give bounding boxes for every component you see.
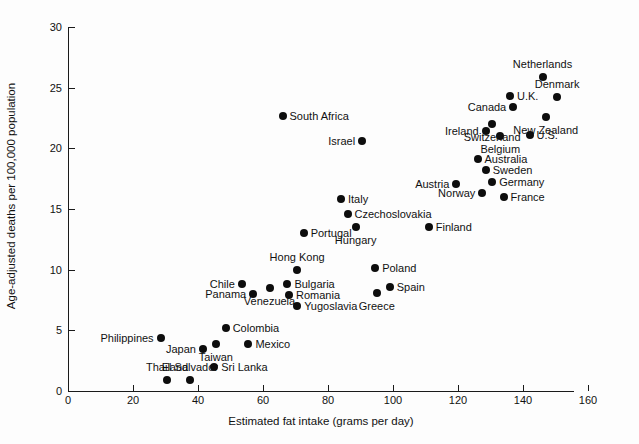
x-tick-label: 140 xyxy=(514,394,532,406)
x-tick-label: 80 xyxy=(322,394,334,406)
data-point xyxy=(542,113,550,121)
y-tick-label: 10 xyxy=(50,264,62,276)
data-point-label: Mexico xyxy=(255,338,290,350)
x-axis-title: Estimated fat intake (grams per day) xyxy=(68,415,574,427)
y-tick-mark xyxy=(69,148,75,149)
y-tick-label: 0 xyxy=(56,385,62,397)
data-point xyxy=(425,223,433,231)
y-axis-title: Age-adjusted deaths per 100,000 populati… xyxy=(4,0,18,391)
x-tick-label: 60 xyxy=(257,394,269,406)
data-point xyxy=(157,334,165,342)
y-tick-label: 5 xyxy=(56,324,62,336)
data-point-label: Czechoslovakia xyxy=(355,208,432,220)
data-point xyxy=(500,193,508,201)
data-point-label: France xyxy=(511,191,545,203)
data-point xyxy=(506,92,514,100)
data-point-label: Canada xyxy=(468,101,507,113)
x-tick-mark xyxy=(68,385,69,391)
x-tick-mark xyxy=(133,385,134,391)
data-point-label: U.K. xyxy=(517,90,538,102)
y-tick-label: 30 xyxy=(50,21,62,33)
data-point xyxy=(210,363,218,371)
y-tick-mark xyxy=(69,27,75,28)
data-point-label: Italy xyxy=(348,193,368,205)
data-point-label: Netherlands xyxy=(513,58,572,70)
y-tick-label: 15 xyxy=(50,203,62,215)
data-point-label: Hungary xyxy=(335,234,377,246)
data-point xyxy=(212,340,220,348)
data-point xyxy=(300,229,308,237)
data-point xyxy=(488,120,496,128)
x-tick-label: 160 xyxy=(579,394,597,406)
data-point xyxy=(283,280,291,288)
data-point-label: Greece xyxy=(359,300,395,312)
x-tick-mark xyxy=(198,385,199,391)
data-point xyxy=(337,195,345,203)
x-tick-mark xyxy=(458,385,459,391)
y-axis-title-text: Age-adjusted deaths per 100,000 populati… xyxy=(5,82,17,308)
data-point xyxy=(373,289,381,297)
data-point-label: Switzerland xyxy=(464,131,521,143)
data-point xyxy=(509,103,517,111)
y-tick-label: 25 xyxy=(50,82,62,94)
data-point xyxy=(222,324,230,332)
x-tick-mark xyxy=(263,385,264,391)
data-point-label: Finland xyxy=(436,221,472,233)
data-point-label: Israel xyxy=(328,135,355,147)
y-tick-mark xyxy=(69,330,75,331)
y-tick-label: 20 xyxy=(50,142,62,154)
data-point xyxy=(488,178,496,186)
data-point-label: Spain xyxy=(397,281,425,293)
y-tick-mark xyxy=(69,270,75,271)
data-point-label: Poland xyxy=(382,262,416,274)
data-point-label: Norway xyxy=(438,187,475,199)
y-tick-mark xyxy=(69,88,75,89)
data-point xyxy=(358,137,366,145)
data-point xyxy=(482,166,490,174)
data-point-label: Belgium xyxy=(480,143,520,155)
x-tick-label: 120 xyxy=(449,394,467,406)
x-tick-mark xyxy=(328,385,329,391)
y-tick-mark xyxy=(69,209,75,210)
data-point-label: Sweden xyxy=(493,164,533,176)
data-point xyxy=(344,210,352,218)
data-point xyxy=(279,112,287,120)
data-point xyxy=(266,284,274,292)
data-point xyxy=(474,155,482,163)
x-tick-label: 20 xyxy=(127,394,139,406)
data-point xyxy=(386,283,394,291)
data-point-label: Colombia xyxy=(233,322,279,334)
x-tick-label: 0 xyxy=(65,394,71,406)
data-point-label: Philippines xyxy=(100,332,153,344)
x-tick-mark xyxy=(523,385,524,391)
x-tick-mark xyxy=(393,385,394,391)
data-point-label: Taiwan xyxy=(199,351,233,363)
data-point-label: Hong Kong xyxy=(270,251,325,263)
data-point xyxy=(186,376,194,384)
data-point-label: Yugoslavia xyxy=(304,300,357,312)
x-tick-mark xyxy=(588,385,589,391)
data-point-label: Chile xyxy=(210,278,235,290)
data-point xyxy=(293,266,301,274)
scatter-chart: 020406080100120140160 051015202530 Thail… xyxy=(0,0,639,444)
x-axis-line xyxy=(68,391,574,392)
x-tick-label: 40 xyxy=(192,394,204,406)
data-point xyxy=(478,189,486,197)
data-point-label: Bulgaria xyxy=(294,278,334,290)
data-point-label: Romania xyxy=(296,289,340,301)
data-point-label: Germany xyxy=(499,176,544,188)
data-point xyxy=(371,264,379,272)
data-point xyxy=(293,302,301,310)
data-point xyxy=(163,376,171,384)
data-point-label: New Zealand xyxy=(513,124,578,136)
data-point xyxy=(352,223,360,231)
data-point xyxy=(539,73,547,81)
data-point-label: South Africa xyxy=(290,110,349,122)
data-point-label: Japan xyxy=(166,343,196,355)
x-tick-label: 100 xyxy=(384,394,402,406)
data-point xyxy=(553,93,561,101)
data-point xyxy=(244,340,252,348)
